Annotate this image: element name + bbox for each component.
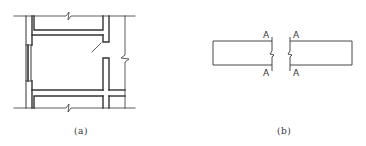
section-label-left-bottom: A	[263, 68, 270, 78]
left-rectangle	[213, 41, 272, 65]
right-cut-line	[288, 37, 292, 71]
section-label-left-top: A	[263, 30, 270, 40]
figure-b-section	[213, 37, 352, 71]
right-rectangle	[290, 41, 352, 65]
left-cut-line	[270, 37, 274, 71]
section-label-right-top: A	[293, 30, 300, 40]
diagram-canvas: A A A A	[0, 0, 366, 146]
right-break-line	[121, 16, 129, 108]
door-swing	[92, 43, 101, 52]
caption-a: (a)	[74, 126, 88, 136]
caption-b: (b)	[277, 126, 291, 136]
figure-a-floor-plan	[14, 12, 135, 112]
section-labels: A A A A	[263, 30, 300, 78]
window	[26, 45, 32, 81]
section-label-right-bottom: A	[293, 68, 300, 78]
